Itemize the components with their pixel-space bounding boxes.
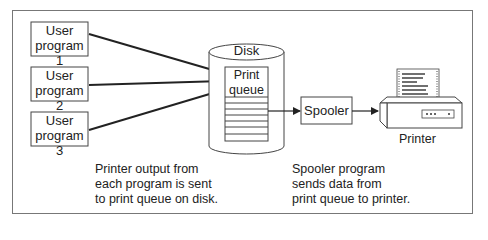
print-queue-line2: queue bbox=[225, 83, 268, 98]
user-program-3-line1: User bbox=[31, 113, 88, 128]
user-program-2-line2: program 2 bbox=[31, 83, 88, 113]
arrow-program3-to-queue bbox=[89, 90, 223, 130]
user-program-3-label: User program 3 bbox=[31, 113, 88, 158]
arrow-program1-to-queue bbox=[89, 34, 223, 73]
print-queue-line1: Print bbox=[225, 68, 268, 83]
left-caption: Printer output from each program is sent… bbox=[95, 162, 218, 207]
right-caption: Spooler program sends data from print qu… bbox=[292, 162, 410, 207]
user-program-1-line2: program 1 bbox=[31, 38, 88, 68]
user-program-1-label: User program 1 bbox=[31, 23, 88, 68]
print-queue-label: Print queue bbox=[225, 68, 268, 98]
printer-label: Printer bbox=[399, 132, 436, 146]
arrow-program2-to-queue bbox=[89, 81, 223, 85]
spooler-label: Spooler bbox=[301, 103, 352, 118]
user-program-3-line2: program 3 bbox=[31, 128, 88, 158]
printer-icon bbox=[380, 69, 462, 128]
user-program-2-label: User program 2 bbox=[31, 68, 88, 113]
user-program-1-line1: User bbox=[31, 23, 88, 38]
disk-label: Disk bbox=[225, 43, 268, 58]
user-program-2-line1: User bbox=[31, 68, 88, 83]
